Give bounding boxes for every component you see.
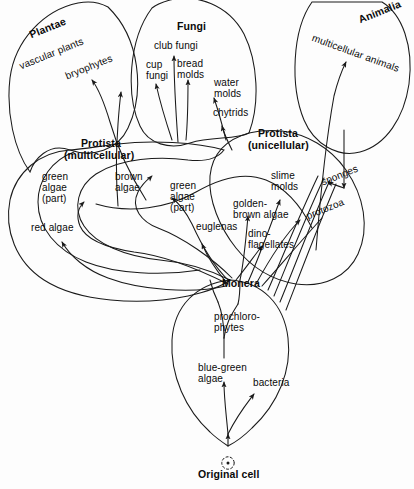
kingdom-label-fungi: Fungi [177,21,206,32]
group-label-protista-multicellular-line2: (multicellular) [64,150,134,161]
taxon-label-euglenas: euglenas [196,222,237,233]
taxon-label-dinoflagellates: dino- flagellates [248,229,294,251]
kingdom-label-monera: Monera [222,278,260,289]
taxon-label-water-molds: water molds [214,78,241,100]
taxon-label-slime-molds: slime molds [271,171,298,193]
taxon-label-cup-fungi: cup fungi [146,60,168,82]
taxon-label-brown-algae: brown algae [115,172,143,194]
lineage-to-bacteria [228,394,254,434]
phylogenetic-tree-figure: Plantae Fungi Animalia Monera Protista (… [0,0,414,489]
original-cell-label: Original cell [198,469,259,480]
taxon-label-red-algae: red algae [31,223,74,234]
lineage-to-bread-molds [186,80,188,140]
group-label-protista-unicellular-line2: (unicellular) [248,140,309,151]
animalia-outline [295,2,410,153]
lineage-to-blue-green-algae [224,382,228,434]
lineage-to-dinoflagellates [236,246,262,280]
lineage-to-water-molds [214,98,226,140]
taxon-label-chytrids: chytrids [213,108,248,119]
taxon-label-club-fungi: club fungi [154,41,198,52]
taxon-label-bacteria: bacteria [253,378,289,389]
taxon-label-bread-molds: bread molds [177,59,204,81]
lineage-to-red-algae [62,242,226,290]
taxon-label-prochlorophytes: prochloro- phytes [214,312,260,334]
taxon-label-blue-green-algae: blue-green algae [198,363,247,385]
group-label-protista-unicellular-line1: Protista [258,128,298,139]
original-cell-nucleus [227,462,230,465]
diagram-canvas [0,0,414,489]
lineage-to-green-algae-part-1 [78,202,228,284]
lineage-to-cup-fungi [156,84,172,140]
taxon-label-green-algae-part-1: green algae (part) [42,172,68,204]
taxon-label-green-algae-part-2: green algae (part) [170,181,196,213]
taxon-label-golden-brown-algae: golden- brown algae [233,199,289,221]
group-label-protista-multicellular-line1: Protista [81,138,121,149]
